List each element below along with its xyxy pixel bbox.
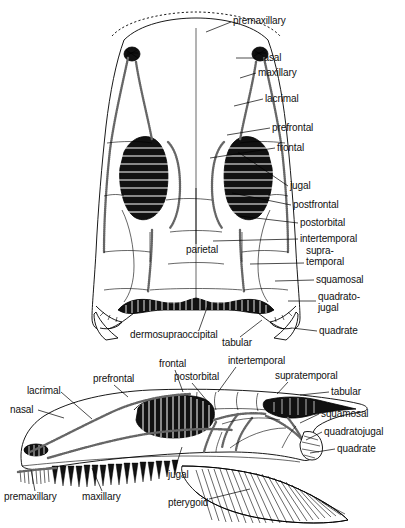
dorsal-sutures	[104, 58, 288, 292]
label-lateral-view-lacrimal: lacrimal	[27, 386, 61, 397]
leader-lateral-view-quadratojugal	[306, 432, 322, 440]
pterygoid-striations	[196, 469, 345, 523]
label-lateral-view-supratemporal: supratemporal	[275, 371, 338, 382]
leader-dorsal-view-supra-temporal	[250, 263, 304, 264]
leader-dorsal-view-postorbital	[239, 216, 298, 223]
lateral-naris	[24, 444, 48, 456]
leader-lateral-view-postorbital	[192, 383, 208, 402]
label-lateral-view-pterygoid: pterygoid	[168, 498, 208, 509]
leader-lateral-view-lacrimal	[61, 392, 92, 419]
label-dorsal-view-tabular: tabular	[222, 338, 252, 349]
pterygoid	[182, 466, 348, 523]
label-dorsal-view-premaxillary: premaxillary	[233, 16, 286, 27]
cheek-bone-lines	[216, 418, 296, 452]
dermosupraoccipital-shelf	[118, 298, 274, 314]
premaxillary-tooth-row	[20, 468, 49, 484]
lateral-orbit	[134, 395, 214, 438]
leader-dorsal-view-tabular	[240, 320, 262, 337]
lateral-skull-outline	[21, 389, 367, 469]
lateral-quadrate	[300, 432, 323, 461]
tabular-horn-left	[94, 312, 118, 340]
label-dorsal-view-frontal: frontal	[277, 143, 304, 154]
leader-lateral-view-maxillary	[92, 468, 102, 491]
label-lateral-view-tabular: tabular	[331, 387, 361, 398]
tabular-horn-right	[274, 312, 298, 340]
label-lateral-view-intertemporal: intertemporal	[228, 356, 285, 367]
label-lateral-view-frontal: frontal	[159, 359, 186, 370]
lateral-sutures	[30, 394, 306, 458]
leader-lateral-view-jugal	[175, 447, 182, 469]
leader-dorsal-view-intertemporal	[213, 239, 298, 241]
external-naris-left	[124, 47, 140, 61]
leader-lateral-view-nasal	[38, 410, 64, 418]
leader-lateral-view-supratemporal	[277, 382, 288, 394]
premaxillary-dotted-inner	[120, 24, 272, 118]
leader-dorsal-view-dermosupraoccipital	[199, 305, 208, 330]
label-lateral-view-squamosal: squamosal	[321, 409, 368, 420]
leader-lateral-view-intertemporal	[218, 367, 236, 392]
label-dorsal-view-prefrontal: prefrontal	[272, 123, 313, 134]
leader-dorsal-view-squamosal	[275, 280, 314, 281]
leader-dorsal-view-postfrontal	[232, 193, 291, 205]
label-lateral-view-premaxillary: premaxillary	[4, 492, 57, 503]
lateral-roof-sutures	[197, 392, 268, 411]
label-dorsal-view-nasal: nasal	[258, 53, 281, 64]
label-lateral-view-jugal: jugal	[168, 470, 189, 481]
skull-anatomy-figure: premaxillarynasalmaxillarylacrimalprefro…	[0, 0, 405, 528]
leader-dorsal-view-quadrate	[292, 328, 317, 331]
label-dorsal-view-parietal: parietal	[186, 245, 218, 256]
label-dorsal-view-maxillary: maxillary	[258, 68, 297, 79]
label-lateral-view-nasal: nasal	[10, 405, 33, 416]
leader-lateral-view-premaxillary	[31, 470, 35, 491]
orbit-left	[118, 137, 170, 220]
label-lateral-view-postorbital: postorbital	[174, 372, 219, 383]
leader-lateral-view-prefrontal	[114, 385, 128, 397]
dorsal-bone-boundaries	[104, 142, 288, 303]
leader-lateral-view-quadrate	[310, 449, 335, 453]
leader-dorsal-view-maxillary	[240, 73, 256, 78]
label-dorsal-view-quadrato-jugal: quadrato- jugal	[318, 292, 360, 313]
leader-dorsal-view-prefrontal	[227, 128, 270, 135]
label-dorsal-view-supra-temporal: supra- temporal	[306, 246, 344, 267]
label-dorsal-view-quadrate: quadrate	[319, 326, 358, 337]
label-lateral-view-prefrontal: prefrontal	[93, 374, 134, 385]
label-dorsal-view-jugal: jugal	[290, 181, 311, 192]
label-dorsal-view-squamosal: squamosal	[316, 275, 363, 286]
label-dorsal-view-postorbital: postorbital	[300, 218, 345, 229]
quadrate-left	[96, 306, 122, 329]
label-dorsal-view-intertemporal: intertemporal	[300, 234, 357, 245]
label-lateral-view-maxillary: maxillary	[82, 492, 121, 503]
label-lateral-view-quadrate: quadrate	[337, 444, 376, 455]
label-lateral-view-quadratojugal: quadratojugal	[324, 427, 383, 438]
leader-dorsal-view-frontal	[210, 148, 275, 158]
dorsal-skull-outline	[92, 18, 300, 330]
label-dorsal-view-dermosupraoccipital: dermosupraoccipital	[130, 330, 218, 341]
leader-lateral-view-squamosal	[300, 414, 319, 423]
label-dorsal-view-lacrimal: lacrimal	[265, 94, 299, 105]
leader-dorsal-view-premaxillary	[206, 22, 231, 32]
orbit-right	[222, 137, 274, 220]
leader-dorsal-view-jugal	[238, 152, 288, 186]
maxillary-tooth-row	[52, 460, 178, 487]
leader-dorsal-view-lacrimal	[234, 99, 263, 106]
quadrate-right	[270, 306, 296, 329]
leader-lateral-view-pterygoid	[209, 489, 250, 499]
leader-lateral-view-tabular	[300, 392, 329, 395]
label-dorsal-view-postfrontal: postfrontal	[293, 200, 339, 211]
